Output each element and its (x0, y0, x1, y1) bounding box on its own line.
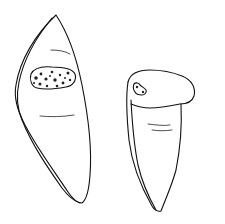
illustration-canvas (0, 0, 225, 224)
right-object-drawing (127, 70, 195, 211)
left-object-drawing (15, 15, 90, 203)
illustration-svg (0, 0, 225, 224)
